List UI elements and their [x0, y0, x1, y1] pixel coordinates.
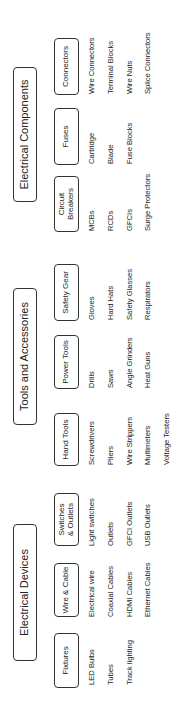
- group-electrical-components: Electrical Components: [13, 67, 37, 202]
- leaf-item: GFCI Outlets: [125, 502, 135, 546]
- leaf-item: USB Outlets: [143, 504, 153, 546]
- group-title: Tools and Accessories: [19, 302, 31, 411]
- category-safety-gear: Safety Gear: [54, 264, 79, 321]
- group-title: Electrical Components: [19, 79, 31, 189]
- leaf-item: Wire Connectors: [87, 37, 97, 94]
- category-switches-outlets: Switches & Outlets: [54, 493, 79, 546]
- category-label: Hand Tools: [62, 420, 70, 460]
- category-wire-cable: Wire & Cable: [54, 563, 79, 617]
- category-label: Switches & Outlets: [58, 502, 75, 538]
- leaf-item: Angle Grinders: [125, 337, 135, 388]
- category-circuit-breakers: Circuit Breakers: [54, 176, 79, 232]
- leaf-item: GFCIs: [125, 209, 135, 231]
- category-label: Safety Gear: [62, 271, 70, 314]
- leaf-item: Gloves: [87, 296, 97, 320]
- leaf-item: Saws: [106, 369, 116, 388]
- leaf-item: Terminal Blocks: [106, 41, 116, 94]
- leaf-item: Electrical wire: [87, 570, 97, 617]
- category-label: Circuit Breakers: [58, 187, 75, 221]
- category-power-tools: Power Tools: [54, 335, 79, 389]
- category-connectors: Connectors: [54, 38, 79, 95]
- category-label: Connectors: [62, 46, 70, 87]
- leaf-item: Track lighting: [125, 640, 135, 685]
- category-fixtures: Fixtures: [54, 633, 79, 688]
- group-tools-accessories: Tools and Accessories: [13, 288, 37, 425]
- leaf-item: LED Bulbs: [87, 649, 97, 685]
- leaf-item: Splice Connectors: [143, 32, 153, 94]
- leaf-item: Fuse Blocks: [125, 123, 135, 164]
- leaf-item: HDMI Cables: [125, 572, 135, 617]
- leaf-item: Pliers: [106, 446, 116, 465]
- category-fuses: Fuses: [54, 108, 79, 165]
- group-title: Electrical Devices: [19, 549, 31, 636]
- leaf-item: MCBs: [87, 210, 97, 231]
- leaf-item: Surge Protectors: [143, 174, 153, 231]
- leaf-item: Drills: [87, 371, 97, 388]
- category-label: Wire & Cable: [62, 566, 70, 613]
- leaf-item: Coaxial Cables: [106, 566, 116, 617]
- leaf-item: Light switches: [87, 498, 97, 546]
- leaf-item: Blade: [106, 145, 116, 164]
- category-label: Power Tools: [62, 340, 70, 383]
- leaf-item: Wire Nuts: [125, 61, 135, 94]
- leaf-item: Screwdrivers: [87, 421, 97, 465]
- group-electrical-devices: Electrical Devices: [13, 524, 37, 661]
- leaf-item: Multimeters: [143, 426, 153, 465]
- category-diagram: Electrical Devices Fixtures LED Bulbs Tu…: [0, 0, 175, 721]
- category-label: Fixtures: [62, 646, 70, 674]
- leaf-item: Safety Glasses: [125, 269, 135, 320]
- leaf-item: Outlets: [106, 522, 116, 546]
- leaf-item: Respirators: [143, 281, 153, 320]
- leaf-item: Ethernet Cables: [143, 563, 153, 617]
- category-label: Fuses: [62, 126, 70, 148]
- leaf-item: RCDs: [106, 211, 116, 231]
- category-hand-tools: Hand Tools: [54, 413, 79, 466]
- leaf-item: Cartridge: [87, 133, 97, 164]
- leaf-item: Wire Strippers: [125, 417, 135, 465]
- leaf-item: Heat Guns: [143, 352, 153, 388]
- leaf-item: Tubes: [106, 664, 116, 685]
- leaf-item: Hard Hats: [106, 286, 116, 320]
- leaf-item: Voltage Testers: [162, 413, 172, 465]
